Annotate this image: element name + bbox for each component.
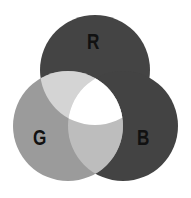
- label-r: R: [87, 31, 99, 53]
- label-g: G: [33, 127, 46, 149]
- label-b: B: [137, 127, 149, 149]
